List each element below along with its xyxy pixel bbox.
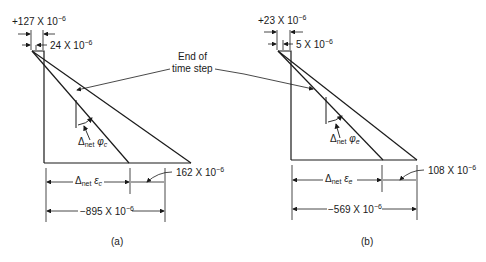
panel-a-bottom-increment: 162 X 10−6	[176, 166, 224, 178]
panel-a-curvature-label: Δnet φc	[78, 137, 107, 148]
panel-a-top-total: +127 X 10−6	[12, 15, 66, 27]
panel-b-bottom-total: −569 X 10−6	[328, 203, 382, 215]
panel-b-top-total: +23 X 10−6	[258, 14, 306, 26]
panel-b-diagram	[264, 30, 424, 220]
panel-b-strain-label: Δnet εe	[325, 174, 353, 185]
panel-a-top-increment: 24 X 10−6	[50, 39, 92, 51]
panel-b-caption: (b)	[361, 236, 373, 247]
panel-b-top-increment: 5 X 10−6	[296, 38, 333, 50]
panel-a-diagram	[18, 30, 191, 222]
end-of-label: End of	[178, 52, 207, 62]
panel-a-caption: (a)	[111, 236, 123, 247]
panel-a-bottom-total: −895 X 10−6	[80, 205, 134, 217]
panel-b-bottom-increment: 108 X 10−6	[428, 164, 476, 176]
time-step-label: time step	[172, 64, 213, 74]
panel-b-curvature-label: Δnet φe	[330, 134, 360, 145]
panel-a-strain-label: Δnet εc	[75, 176, 102, 187]
